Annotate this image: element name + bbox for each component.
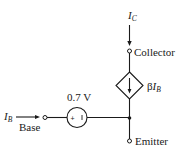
base-current-label: IB <box>3 110 13 124</box>
voltage-source-label: 0.7 V <box>67 91 91 103</box>
base-current-arrow <box>16 115 40 119</box>
collector-current-arrow <box>127 25 131 46</box>
dependent-source-label: βIB <box>147 80 161 94</box>
bjt-model-diagram: IC Collector βIB Emitter IB Base + <box>0 0 182 154</box>
emitter-terminal[interactable] <box>128 139 132 143</box>
voltage-source: + <box>67 108 87 128</box>
collector-terminal-label: Collector <box>134 46 175 58</box>
plus-sign: + <box>71 115 75 122</box>
collector-current-label: IC <box>127 9 138 23</box>
base-terminal-label: Base <box>19 121 41 133</box>
emitter-terminal-label: Emitter <box>135 135 168 147</box>
base-terminal[interactable] <box>43 116 47 120</box>
collector-terminal[interactable] <box>128 49 132 53</box>
dependent-current-source <box>116 72 143 99</box>
